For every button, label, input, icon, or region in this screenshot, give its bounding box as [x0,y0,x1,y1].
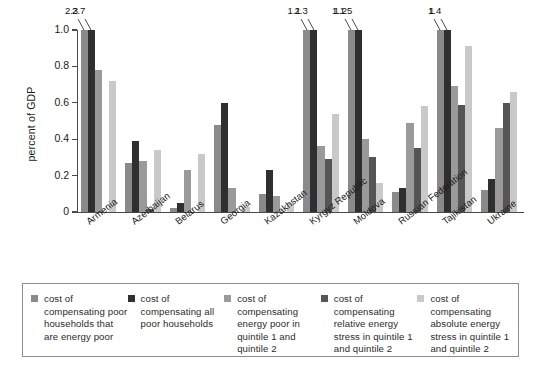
legend-swatch-icon [128,295,135,302]
bar [488,179,495,212]
legend-swatch-icon [224,295,231,302]
bar [503,103,510,212]
callout-leader-line [348,18,368,30]
y-tick-label-wrap: 0.2 [25,176,69,177]
bar [214,125,221,212]
bar [259,194,266,212]
y-tick-mark [72,139,77,140]
y-tick-label-wrap: 0.8 [25,66,69,67]
bar [510,92,517,212]
bar-group [125,30,167,212]
y-tick-label-wrap: 0.6 [25,103,69,104]
legend-label: cost of compensating all poor households [141,293,225,331]
y-tick-label: 1.0 [29,23,69,35]
bar [109,81,116,212]
bar [406,123,413,212]
bar-group [170,30,212,212]
y-tick-label: 0.6 [29,96,69,108]
y-tick-mark [72,175,77,176]
bar [451,86,458,212]
bar [221,103,228,212]
bar [88,30,95,212]
clipped-value-label: 2.7 [70,5,86,16]
bar [170,208,177,212]
bar [399,188,406,212]
bar-group [81,30,123,212]
clipped-value-label: 1.25 [332,5,353,16]
y-tick-label: 0 [29,205,69,217]
bar [317,146,324,212]
y-tick-mark [72,211,77,212]
legend-item[interactable]: cost of compensating absolute energy str… [417,293,514,352]
bar [458,105,465,212]
bar [125,163,132,212]
bar [132,141,139,212]
legend-label: cost of compensating absolute energy str… [430,293,514,356]
bar-group [214,30,256,212]
legend-label: cost of compensating relative energy str… [334,293,418,356]
chart-legend: cost of compensating poor households tha… [22,283,519,357]
bar-group [481,30,523,212]
bar [303,30,310,212]
bar-group [303,30,345,212]
legend-item[interactable]: cost of compensating poor households tha… [31,293,128,352]
legend-label: cost of compensating poor households tha… [44,293,128,343]
bar [465,46,472,212]
bar-group [392,30,434,212]
bar [481,190,488,212]
legend-swatch-icon [31,295,38,302]
y-tick-label-wrap: 0.4 [25,139,69,140]
y-tick-mark [72,66,77,67]
bar-group [259,30,301,212]
legend-swatch-icon [321,295,328,302]
callout-leader-line [304,18,324,30]
y-tick-label: 0.8 [29,59,69,71]
callout-leader-line [81,18,101,30]
legend-label: cost of compensating energy poor in quin… [237,293,321,356]
clipped-value-label: 2.3 [292,5,308,16]
y-tick-label-wrap: 1.0 [25,30,69,31]
bar [310,30,317,212]
bar [95,70,102,212]
y-tick-label: 0.2 [29,169,69,181]
bar [81,30,88,212]
bar [392,192,399,212]
legend-item[interactable]: cost of compensating energy poor in quin… [224,293,321,352]
y-tick-label: 0.4 [29,132,69,144]
callout-leader-line [437,18,457,30]
clipped-value-label: 1.4 [426,5,442,16]
bar [266,170,273,212]
bar-chart: percent of GDP 00.20.40.60.81.0 2.32.71.… [0,0,543,268]
bar [495,128,502,212]
legend-item[interactable]: cost of compensating relative energy str… [321,293,418,352]
y-tick-label-wrap: 0 [25,212,69,213]
y-tick-mark [72,102,77,103]
legend-item[interactable]: cost of compensating all poor households [128,293,225,352]
legend-swatch-icon [417,295,424,302]
